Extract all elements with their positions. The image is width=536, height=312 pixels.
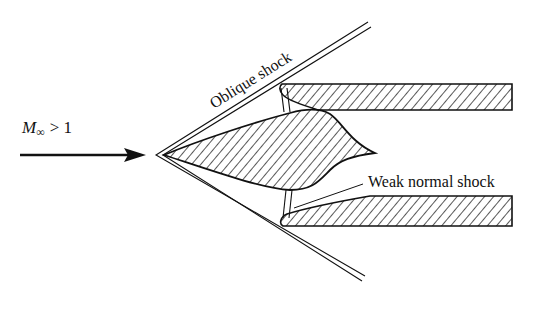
oblique-shock-label: Oblique shock: [207, 48, 295, 112]
mach-label: M∞> 1: [21, 118, 72, 139]
weak-normal-shock-label: Weak normal shock: [368, 173, 495, 190]
upper-cowl: [280, 84, 512, 110]
inlet-diagram: M∞> 1 Oblique shock Weak normal shock: [0, 0, 536, 312]
freestream-arrow: [20, 148, 146, 162]
